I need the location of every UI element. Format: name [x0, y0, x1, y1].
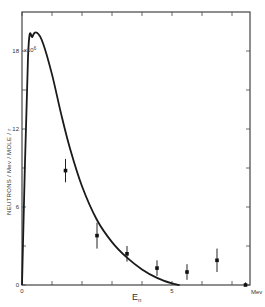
y-tick-label: 0 [16, 282, 20, 288]
theoretical-curve [22, 32, 180, 285]
y-tick-label: 18 [12, 48, 19, 54]
data-point [64, 169, 68, 173]
data-point [155, 266, 159, 270]
data-point [244, 283, 248, 287]
x-axis-title: En [132, 292, 141, 303]
plot-frame [22, 12, 250, 285]
data-point [215, 259, 219, 263]
data-point [125, 252, 129, 256]
data-point [185, 270, 189, 274]
x-tick-label: 5 [170, 288, 174, 294]
plot-border [22, 12, 250, 285]
curve-line [22, 32, 180, 285]
x-tick-label: 0 [20, 288, 24, 294]
data-point [95, 234, 99, 238]
y-axis-title: NEUTRONS / Mev / MOLE / r [6, 128, 12, 215]
tick-labels: 05061218 [12, 48, 174, 294]
data-points [64, 159, 248, 287]
axis-ticks [22, 12, 250, 285]
y-multiplier-label: x106 [24, 46, 37, 53]
y-tick-label: 6 [16, 204, 20, 210]
neutron-spectrum-chart: 05061218 NEUTRONS / Mev / MOLE / r x106 … [0, 0, 265, 307]
x-unit-label: Mev [251, 289, 262, 295]
y-tick-label: 12 [12, 126, 19, 132]
